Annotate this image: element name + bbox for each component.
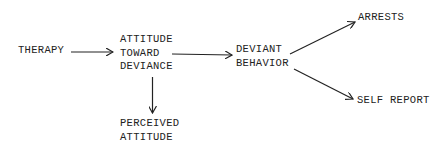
perceived-line-1: PERCEIVED	[120, 117, 179, 129]
arrow-deviant-to-self-report	[294, 69, 353, 99]
node-perceived-attitude: PERCEIVED ATTITUDE	[120, 117, 179, 144]
perceived-line-2: ATTITUDE	[120, 131, 173, 143]
attitude-line-2: TOWARD	[120, 47, 160, 59]
arrow-deviant-to-arrests	[290, 22, 355, 54]
arrow-attitude-to-deviant	[172, 54, 232, 55]
node-arrests: ARRESTS	[358, 11, 404, 25]
node-attitude-toward-deviance: ATTITUDE TOWARD DEVIANCE	[120, 33, 173, 74]
node-deviant-behavior: DEVIANT BEHAVIOR	[236, 43, 289, 70]
attitude-line-3: DEVIANCE	[120, 60, 173, 72]
node-self-report: SELF REPORT	[357, 94, 430, 108]
deviant-line-2: BEHAVIOR	[236, 57, 289, 69]
deviant-line-1: DEVIANT	[236, 43, 282, 55]
attitude-line-1: ATTITUDE	[120, 33, 173, 45]
node-therapy: THERAPY	[18, 44, 64, 58]
